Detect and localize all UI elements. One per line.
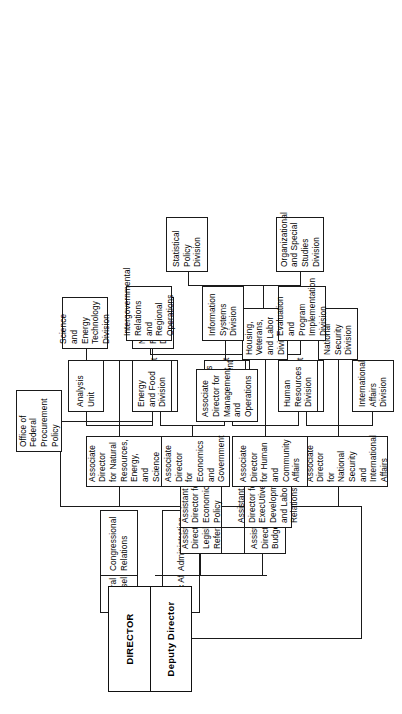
node-energy-and-food-division[interactable]: Energy and Food Division [132,360,172,412]
node-information-systems-division[interactable]: Information Systems Division [202,286,244,341]
connector-assoc-1 [338,487,339,507]
node-associate-director-economics-government[interactable]: Associate Director for Economics and Gov… [160,436,230,487]
connector-eg-in [192,426,193,436]
node-organizational-and-special-studies-division[interactable]: Organizational and Special Studies Divis… [276,217,324,272]
node-label: Associate Director for Human and Communi… [238,441,302,482]
connector-nr-in [119,426,120,436]
connector-mo-statpolicy [188,272,189,286]
connector-ns-in [338,426,339,436]
node-label: International Affairs Division [357,365,389,407]
node-label: Congressional Relations [108,515,129,571]
node-label: Human Resources Division [282,365,314,407]
node-office-of-federal-procurement-policy[interactable]: Office of Federal Procurement Policy [16,390,62,452]
org-chart: DIRECTOR Deputy Director General Counsel… [0,0,402,714]
node-science-and-energy-technology-division[interactable]: Science and Energy Technology Division [62,297,108,349]
connector-hc-in [265,426,266,436]
deputy-director-cell: Deputy Director [151,587,192,691]
director-cell: DIRECTOR [109,587,151,691]
node-intergovernmental-relations-regional-operations[interactable]: Intergovernmental Relations and Regional… [126,286,172,341]
connector-mo-eval [300,341,301,355]
connector-ofpp-vertical [60,421,152,422]
connector-nr-out [119,360,120,426]
node-human-resources-division[interactable]: Human Resources Division [278,360,318,412]
connector-eg-mgmt [160,412,161,426]
connector-mo-orgstudies [300,272,301,286]
node-evaluation-and-program-implementation-division[interactable]: Evaluation and Program Implementation Di… [278,286,326,341]
node-congressional-relations[interactable]: Congressional Relations [100,510,138,576]
node-label: Energy and Food Division [136,365,168,407]
connector-ad-budget [262,554,263,576]
connector-assoc-4 [119,487,120,507]
node-statistical-policy-division[interactable]: Statistical Policy Division [166,217,208,272]
node-label: Associate Director for National Security… [305,441,390,482]
connector-head-to-bus [361,507,362,639]
node-label: Organizational and Special Studies Divis… [279,222,321,267]
node-label: Associate Director for Economics and Gov… [163,441,227,482]
node-associate-director-natural-resources[interactable]: Associate Director for Natural Resources… [86,436,162,487]
node-label: Associate Director for Management and Op… [200,374,253,417]
connector-ns-natsec [338,360,339,426]
node-label: Office of Federal Procurement Policy [18,395,60,447]
node-label: Analysis Unit [75,365,96,407]
connector-nr-energy [152,412,153,426]
node-label: Evaluation and Program Implementation Di… [275,291,328,336]
node-associate-director-management-operations[interactable]: Associate Director for Management and Op… [196,369,258,422]
node-label: Intergovernmental Relations and Regional… [122,291,175,336]
node-label: Information Systems Division [207,291,239,336]
node-analysis-unit[interactable]: Analysis Unit [68,360,104,412]
connector-mo-info [225,341,226,355]
connector-ns-mgmt [306,412,307,426]
connector-nr-analysis [86,412,87,426]
connector-hc-housing [265,360,266,426]
head-box: DIRECTOR Deputy Director [108,586,192,692]
node-international-affairs-division[interactable]: International Affairs Division [352,360,394,412]
node-associate-director-human-community[interactable]: Associate Director for Human and Communi… [232,436,308,487]
node-associate-director-national-security[interactable]: Associate Director for National Security… [306,436,388,487]
connector-hc-hr [298,412,299,426]
node-label: Associate Director for Natural Resources… [87,441,161,482]
connector-ns-intl [372,412,373,426]
connector-ad-legref [200,554,201,576]
rotated-page-wrapper: DIRECTOR Deputy Director General Counsel… [0,0,402,714]
node-label: Statistical Policy Division [171,222,203,267]
node-label: Science and Energy Technology Division [58,302,111,344]
